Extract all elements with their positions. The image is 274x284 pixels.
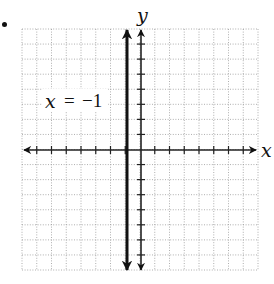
x-axis: [24, 146, 256, 154]
line-equation-label: x = −1: [42, 89, 108, 112]
y-axis-label: y: [136, 4, 148, 26]
equation-variable: x: [45, 90, 56, 112]
x-axis-label: x: [261, 139, 272, 161]
coordinate-graph: y x x = −1: [0, 0, 274, 284]
equation-equals: =: [64, 90, 75, 111]
equation-value: −1: [82, 90, 102, 111]
